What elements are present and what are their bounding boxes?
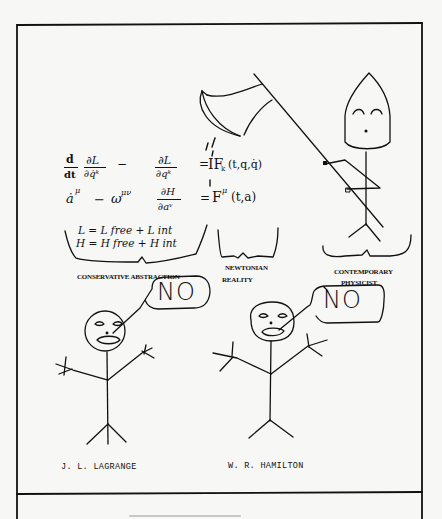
fraction-bar bbox=[64, 167, 78, 168]
eq-force-sub: k bbox=[221, 165, 225, 173]
eq-adot: ȧ bbox=[66, 191, 74, 206]
hamilton-speech-text: NO bbox=[323, 286, 362, 314]
axe-icon bbox=[200, 74, 383, 227]
label-contemporary: CONTEMPORARY bbox=[334, 268, 393, 276]
label-reality: REALITY bbox=[222, 276, 253, 284]
cartoon-page: d dt ∂L ∂q̇ᵏ − ∂L ∂qᵏ = IF k (t,q,q̇) ȧ … bbox=[0, 0, 442, 519]
eq-d-denominator: dt bbox=[64, 169, 76, 180]
eq-f2-denominator: ∂qᵏ bbox=[156, 168, 171, 179]
contemporary-physicist-figure bbox=[323, 73, 411, 257]
eq-minus: − bbox=[94, 192, 105, 207]
eq-force: F bbox=[212, 189, 222, 205]
eq-adot-sup: μ bbox=[75, 186, 80, 195]
cartoon-drawing bbox=[0, 0, 442, 519]
eq-h-denominator: ∂aᵛ bbox=[158, 201, 173, 212]
newtonian-bowl bbox=[218, 228, 278, 258]
lagrange-speech-text: NO bbox=[157, 278, 196, 306]
eq-f1-denominator: ∂q̇ᵏ bbox=[84, 168, 99, 179]
lagrangian-split: L = L free + L int bbox=[78, 224, 172, 236]
eq-force-args: (t,q,q̇) bbox=[228, 158, 262, 171]
eq-f2-numerator: ∂L bbox=[158, 154, 171, 167]
label-newtonian: NEWTONIAN bbox=[225, 264, 268, 272]
eq-omega-sup: μν bbox=[121, 188, 131, 197]
name-hamilton: W. R. HAMILTON bbox=[228, 461, 304, 471]
fraction-bar bbox=[157, 199, 181, 200]
eq-minus: − bbox=[117, 157, 127, 171]
eq-equals: = bbox=[200, 191, 210, 205]
eq-h-numerator: ∂H bbox=[161, 186, 175, 197]
name-lagrange: J. L. LAGRANGE bbox=[61, 462, 137, 472]
eq-force-args: (t,a) bbox=[231, 190, 256, 204]
eq-d-numerator: d bbox=[66, 153, 74, 166]
eq-f1-numerator: ∂L bbox=[86, 154, 99, 167]
hamiltonian-split: H = H free + H int bbox=[76, 237, 177, 249]
eq-force-sup: μ bbox=[222, 186, 227, 195]
